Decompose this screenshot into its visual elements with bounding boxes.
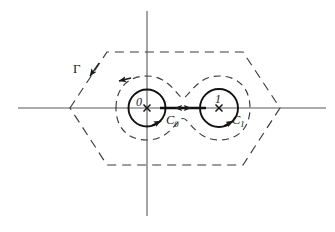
label-c1-subscript: 1 bbox=[240, 119, 244, 129]
gamma-direction-arrow bbox=[90, 63, 99, 76]
label-branch-point-0: 0 bbox=[136, 96, 142, 108]
label-c1: C1 bbox=[232, 114, 245, 128]
label-c0-subscript: 0 bbox=[174, 119, 178, 129]
label-branch-point-1: 1 bbox=[215, 93, 221, 105]
label-gamma: Γ bbox=[73, 62, 81, 75]
label-c0: C0 bbox=[166, 114, 179, 128]
contour-integration-figure: Γ 0 1 C0 C1 bbox=[0, 0, 335, 232]
dumbbell-direction-arrow bbox=[119, 78, 131, 81]
